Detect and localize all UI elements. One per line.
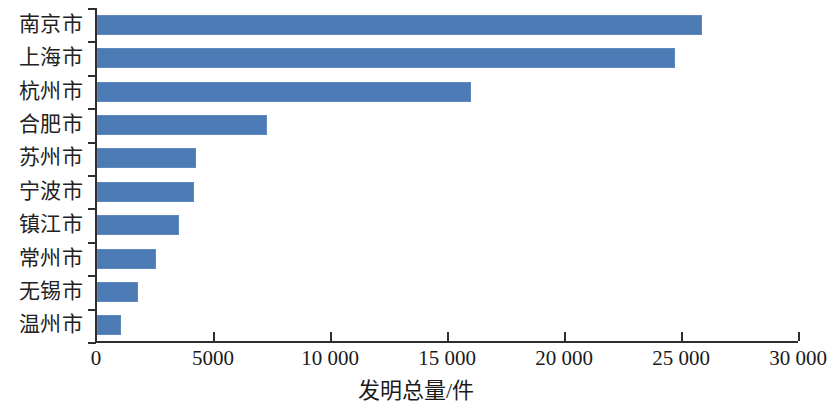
bar-series (97, 8, 800, 342)
bar-chart: 南京市上海市杭州市合肥市苏州市宁波市镇江市常州市无锡市温州市 0500010 0… (0, 0, 832, 412)
x-tick-2 (330, 332, 332, 341)
y-axis-label-1: 上海市 (0, 47, 83, 68)
x-tick-label-1: 5000 (192, 347, 234, 370)
x-tick-5 (681, 332, 683, 341)
y-axis-label-3: 合肥市 (0, 114, 83, 135)
y-tick-6 (88, 242, 96, 244)
y-axis-label-5: 宁波市 (0, 181, 83, 202)
bar-8 (97, 282, 138, 302)
y-tick-2 (88, 108, 96, 110)
y-axis-label-4: 苏州市 (0, 147, 83, 168)
y-axis-label-7: 常州市 (0, 248, 83, 269)
x-tick-6 (798, 332, 800, 341)
y-tick-top (88, 8, 96, 10)
x-tick-1 (213, 332, 215, 341)
x-axis-line (95, 341, 798, 343)
y-tick-5 (88, 208, 96, 210)
bar-9 (97, 315, 121, 335)
y-axis-label-9: 温州市 (0, 314, 83, 335)
y-tick-3 (88, 142, 96, 144)
x-tick-label-4: 20 000 (535, 347, 593, 370)
bar-0 (97, 15, 702, 35)
bar-1 (97, 48, 675, 68)
x-axis-title: 发明总量/件 (0, 378, 832, 404)
x-tick-label-0: 0 (91, 347, 102, 370)
bar-4 (97, 148, 196, 168)
x-tick-label-3: 15 000 (418, 347, 476, 370)
bar-7 (97, 249, 156, 269)
y-tick-1 (88, 75, 96, 77)
y-tick-7 (88, 275, 96, 277)
bar-5 (97, 182, 194, 202)
y-tick-8 (88, 309, 96, 311)
y-axis-label-8: 无锡市 (0, 281, 83, 302)
bar-3 (97, 115, 267, 135)
y-axis-category-labels: 南京市上海市杭州市合肥市苏州市宁波市镇江市常州市无锡市温州市 (0, 8, 88, 342)
y-axis-label-0: 南京市 (0, 14, 83, 35)
x-tick-4 (564, 332, 566, 341)
x-tick-label-6: 30 000 (769, 347, 827, 370)
y-tick-4 (88, 175, 96, 177)
y-tick-0 (88, 41, 96, 43)
y-axis-label-2: 杭州市 (0, 81, 83, 102)
y-axis-label-6: 镇江市 (0, 214, 83, 235)
bar-2 (97, 82, 471, 102)
x-tick-3 (447, 332, 449, 341)
bar-6 (97, 215, 179, 235)
x-tick-label-2: 10 000 (301, 347, 359, 370)
x-tick-label-5: 25 000 (652, 347, 710, 370)
